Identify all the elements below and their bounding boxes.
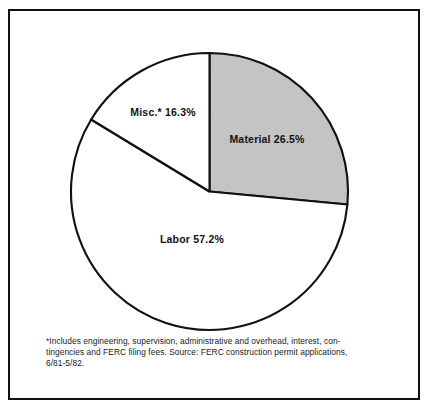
pie-slice-label-labor: Labor 57.2% [160, 234, 224, 245]
footnote-line-3: 6/81-5/82. [46, 358, 394, 369]
footnote-line-1: *Includes engineering, supervision, admi… [46, 336, 394, 347]
pie-slice-label-material: Material 26.5% [229, 134, 304, 145]
pie-slice-label-misc: Misc.* 16.3% [130, 107, 195, 118]
pie-slice-material[interactable] [210, 53, 349, 205]
pie-chart-figure: Misc.* 16.3% Material 26.5% Labor 57.2% … [0, 0, 431, 409]
pie-slices-group [71, 53, 348, 330]
footnote-line-2: tingencies and FERC filing fees. Source:… [46, 347, 394, 358]
chart-footnote: *Includes engineering, supervision, admi… [46, 336, 394, 370]
